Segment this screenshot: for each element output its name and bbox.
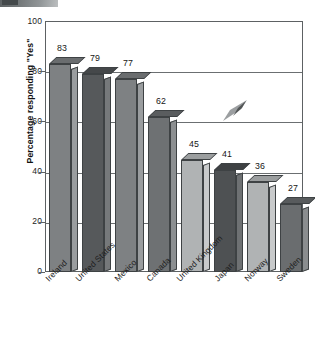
scan-artifact-top-left [0, 0, 58, 7]
bar-face-mexico [115, 79, 137, 272]
bar-top-united-states [82, 67, 119, 74]
bar-label-united-states: 79 [81, 54, 109, 63]
bar-japan[interactable]: 41 [214, 169, 236, 272]
bar-top-norway [247, 175, 284, 182]
bar-label-japan: 41 [213, 150, 241, 159]
bar-top-sweden [280, 197, 315, 204]
bar-top-mexico [115, 72, 152, 79]
bar-side-japan [236, 172, 243, 272]
bar-label-sweden: 27 [279, 184, 307, 193]
bar-label-canada: 62 [147, 97, 175, 106]
y-axis-title: Percentage responding "Yes" [25, 14, 35, 189]
bar-label-mexico: 77 [114, 59, 142, 68]
bar-side-canada [170, 119, 177, 272]
chart-figure: Percentage responding "Yes" 100 80 60 40… [0, 0, 315, 349]
bar-side-sweden [302, 206, 309, 272]
bar-face-japan [214, 170, 236, 272]
bar-face-united-states [82, 74, 104, 272]
bar-top-canada [148, 110, 185, 117]
bars-layer: 83 79 77 62 45 [45, 21, 303, 272]
bar-label-united-kingdom: 45 [180, 140, 208, 149]
y-tick-label-100: 100 [16, 17, 42, 26]
bar-face-canada [148, 117, 170, 272]
bar-mexico[interactable]: 77 [115, 78, 137, 272]
bar-united-states[interactable]: 79 [82, 73, 104, 272]
bar-side-mexico [137, 81, 144, 272]
bar-ireland[interactable]: 83 [49, 63, 71, 272]
bar-canada[interactable]: 62 [148, 116, 170, 272]
bar-label-ireland: 83 [48, 44, 76, 53]
bar-side-norway [269, 184, 276, 272]
bar-label-norway: 36 [246, 162, 274, 171]
bar-side-ireland [71, 66, 78, 272]
bar-face-ireland [49, 64, 71, 272]
